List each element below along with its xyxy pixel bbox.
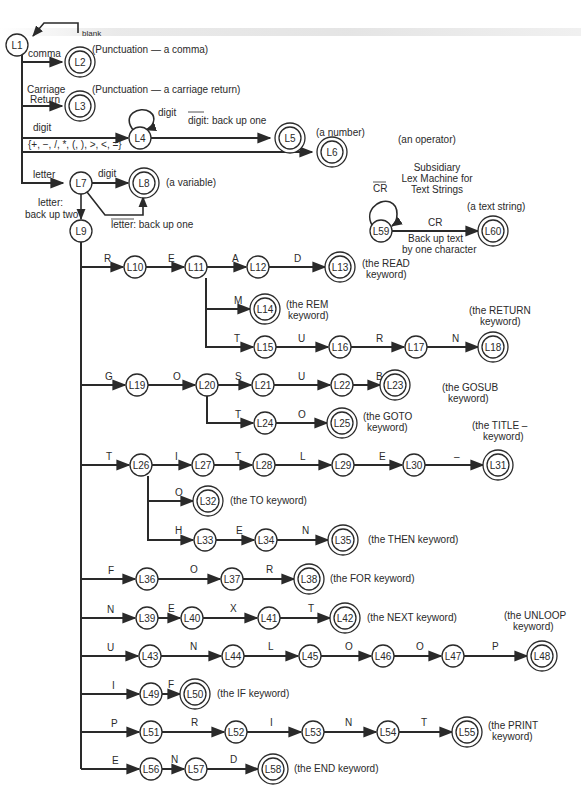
- note-cr: (Punctuation — a carriage return): [92, 84, 240, 95]
- state-L12: L12: [250, 262, 267, 273]
- edge-L: L: [300, 451, 306, 462]
- edge-N: N: [452, 333, 459, 344]
- state-L26: L26: [133, 460, 150, 471]
- note-then: (the THEN keyword): [368, 534, 458, 545]
- edge-R3: R: [266, 564, 273, 575]
- state-L51: L51: [143, 727, 160, 738]
- edge-E2: E: [379, 451, 386, 462]
- edge-B: B: [376, 371, 383, 382]
- edge-N5: N: [345, 717, 352, 728]
- state-L35: L35: [335, 535, 352, 546]
- edge-return: Return: [30, 94, 60, 105]
- edge-I2: I: [112, 680, 115, 691]
- state-L29: L29: [335, 460, 352, 471]
- state-L57: L57: [188, 764, 205, 775]
- edge-O4: O: [190, 564, 198, 575]
- note-read-2: keyword): [366, 269, 407, 280]
- edge-A: A: [232, 253, 239, 264]
- state-L53: L53: [305, 727, 322, 738]
- edge-O5: O: [345, 641, 353, 652]
- state-L10: L10: [127, 262, 144, 273]
- edge-F2: F: [168, 679, 174, 690]
- edge-P2: P: [111, 718, 118, 729]
- edge-I: I: [175, 451, 178, 462]
- edge-blank: blank: [82, 29, 102, 38]
- edge-not-digit: digit: back up one: [188, 115, 267, 126]
- edge-backup-2: by one character: [402, 244, 477, 255]
- edge-backup-1: Back up text: [408, 233, 463, 244]
- edge-P: P: [492, 641, 499, 652]
- note-number: (a number): [316, 127, 365, 138]
- note-subsidiary-2: Lex Machine for: [401, 173, 473, 184]
- state-L13: L13: [332, 262, 349, 273]
- state-L34: L34: [258, 535, 275, 546]
- state-L1: L1: [11, 40, 23, 51]
- state-L27: L27: [195, 460, 212, 471]
- edge-T4: T: [235, 451, 241, 462]
- edge-M: M: [234, 295, 242, 306]
- edge-digit-loop: digit: [158, 107, 177, 118]
- state-L56: L56: [143, 764, 160, 775]
- edge-E3: E: [236, 525, 243, 536]
- state-L52: L52: [228, 727, 245, 738]
- note-subsidiary-3: Text Strings: [411, 184, 463, 195]
- edge-S: S: [235, 371, 242, 382]
- state-L40: L40: [184, 613, 201, 624]
- edge-O2: O: [298, 409, 306, 420]
- edge-T2: T: [235, 409, 241, 420]
- state-L20: L20: [199, 380, 216, 391]
- state-L39: L39: [139, 613, 156, 624]
- state-L46: L46: [375, 651, 392, 662]
- note-rem-2: keyword): [288, 310, 329, 321]
- note-operator: (an operator): [398, 134, 456, 145]
- state-L18: L18: [485, 342, 502, 353]
- edge-l7-digit: digit: [98, 168, 117, 179]
- note-comma: (Punctuation — a comma): [92, 44, 208, 55]
- edge-O6: O: [416, 641, 424, 652]
- edge-R4: R: [191, 717, 198, 728]
- state-L5: L5: [284, 133, 296, 144]
- state-L7: L7: [75, 178, 87, 189]
- edge-T: T: [234, 333, 240, 344]
- edge-I3: I: [270, 717, 273, 728]
- note-variable: (a variable): [166, 177, 216, 188]
- fsm-diagram: L1 L2 L3 L4 L5 L6 L7 L8 L9 L59 L60 L10 L…: [0, 0, 581, 795]
- note-gosub-1: (the GOSUB: [442, 382, 498, 393]
- state-L58: L58: [265, 764, 282, 775]
- note-end: (the END keyword): [294, 763, 378, 774]
- edge-dash: –: [454, 451, 460, 462]
- edge-R2: R: [376, 333, 383, 344]
- edge-letter-back-2: back up two: [25, 209, 79, 220]
- state-L59: L59: [373, 226, 390, 237]
- note-title-1: (the TITLE –: [472, 420, 528, 431]
- edge-N2: N: [302, 525, 309, 536]
- edge-letter-back-1: letter:: [38, 197, 63, 208]
- edge-not-cr: CR: [373, 183, 387, 194]
- state-L47: L47: [445, 651, 462, 662]
- state-L6: L6: [326, 147, 338, 158]
- state-L15: L15: [257, 342, 274, 353]
- state-L33: L33: [197, 535, 214, 546]
- edge-letter: letter: [33, 169, 56, 180]
- state-L25: L25: [334, 418, 351, 429]
- edge-N3: N: [107, 604, 114, 615]
- state-L38: L38: [301, 574, 318, 585]
- state-L36: L36: [139, 574, 156, 585]
- state-L16: L16: [332, 342, 349, 353]
- note-unloop-1: (the UNLOOP: [504, 610, 567, 621]
- note-return-2: keyword): [480, 316, 521, 327]
- state-L24: L24: [257, 418, 274, 429]
- edge-not-letter: letter: back up one: [111, 219, 194, 230]
- edge-N6: N: [171, 754, 178, 765]
- note-unloop-2: keyword): [513, 621, 554, 632]
- state-L31: L31: [490, 460, 507, 471]
- state-L2: L2: [74, 57, 86, 68]
- edge-G: G: [105, 371, 113, 382]
- edge-cr: CR: [428, 217, 442, 228]
- edge-F: F: [108, 565, 114, 576]
- edge-X: X: [230, 603, 237, 614]
- note-print-1: (the PRINT: [488, 720, 538, 731]
- edge-U3: U: [107, 642, 114, 653]
- state-L22: L22: [334, 380, 351, 391]
- note-read-1: (the READ: [362, 258, 410, 269]
